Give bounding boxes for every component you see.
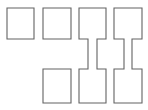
- shape-col3-dumbbell: [79, 8, 106, 103]
- diagram-canvas: [0, 0, 148, 110]
- shape-col4-dumbbell: [114, 8, 142, 103]
- shape-col2-top-rect: [43, 8, 71, 39]
- shapes-svg: [0, 0, 148, 110]
- shape-col1-top-rect: [7, 8, 34, 39]
- shape-col2-bottom-rect: [43, 69, 71, 103]
